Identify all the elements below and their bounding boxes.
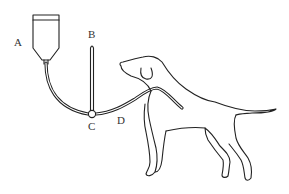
label-a: A: [14, 36, 22, 48]
manometer-tube: [91, 46, 94, 111]
dog-outline: [120, 56, 276, 180]
label-d: D: [117, 114, 125, 126]
reservoir-bottle: [33, 15, 59, 64]
apparatus-diagram: A B C D: [0, 0, 289, 194]
label-b: B: [88, 28, 95, 40]
animal-tube: [96, 88, 182, 114]
bottle-tube: [46, 63, 88, 114]
label-c: C: [88, 120, 95, 132]
junction-c: [88, 110, 95, 117]
